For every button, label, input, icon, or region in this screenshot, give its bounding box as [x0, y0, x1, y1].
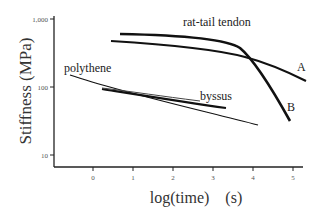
y-axis-label: Stiffness (MPa) [16, 38, 35, 145]
series-rat-tail-A [111, 41, 306, 81]
label-polythene: polythene [64, 61, 111, 75]
x-tick-label-3: 3 [211, 174, 215, 182]
x-tick-label-0: 0 [91, 174, 95, 182]
stiffness-chart: 1,000 100 10 0 1 2 3 4 5 log(time) (s) S… [0, 0, 325, 218]
label-B: B [287, 100, 295, 114]
series-rat-tail-B [120, 34, 290, 121]
y-tick-label-10: 10 [41, 152, 49, 160]
label-byssus: byssus [200, 89, 232, 103]
label-rat-tail-tendon: rat-tail tendon [183, 15, 251, 29]
label-A: A [297, 60, 306, 74]
x-tick-label-1: 1 [131, 174, 135, 182]
x-axis-label: log(time) (s) [150, 189, 242, 207]
x-tick-label-5: 5 [291, 174, 295, 182]
x-tick-label-4: 4 [251, 174, 255, 182]
y-tick-label-100: 100 [38, 84, 49, 92]
y-tick-label-1000: 1,000 [32, 16, 48, 24]
x-tick-label-2: 2 [171, 174, 175, 182]
series-byssus-edge [102, 88, 200, 101]
